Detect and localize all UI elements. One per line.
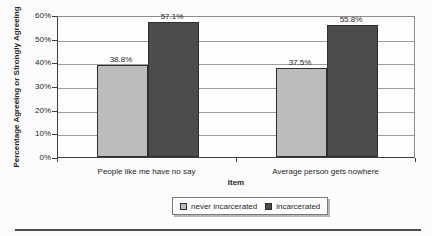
y-tick-label: 30% bbox=[21, 83, 51, 91]
bar-incarcerated bbox=[148, 22, 199, 157]
bar-value-label: 57.1% bbox=[147, 12, 197, 22]
category-label: People like me have no say bbox=[62, 167, 232, 177]
x-tick bbox=[57, 158, 58, 162]
bar-incarcerated bbox=[327, 25, 378, 157]
legend-marker-icon bbox=[180, 203, 187, 210]
category-label: Average person gets nowhere bbox=[241, 167, 411, 177]
bar-never-incarcerated bbox=[97, 65, 148, 157]
y-tick-label: 60% bbox=[21, 12, 51, 20]
bar-value-label: 37.5% bbox=[275, 58, 325, 68]
bar-chart: Percentage Agreeing or Strongly Agreeing… bbox=[0, 0, 432, 222]
y-tick bbox=[52, 134, 57, 135]
y-tick-label: 50% bbox=[21, 36, 51, 44]
horizontal-rule bbox=[15, 229, 421, 231]
x-tick bbox=[236, 158, 237, 162]
y-tick bbox=[52, 16, 57, 17]
bar-never-incarcerated bbox=[276, 68, 327, 157]
y-tick-label: 40% bbox=[21, 59, 51, 67]
y-tick bbox=[52, 111, 57, 112]
legend-entry-never-incarcerated: never incarcerated bbox=[180, 202, 257, 211]
plot-area bbox=[57, 16, 415, 158]
y-tick-label: 20% bbox=[21, 107, 51, 115]
y-tick bbox=[52, 40, 57, 41]
legend-label: incarcerated bbox=[276, 202, 320, 211]
y-tick bbox=[52, 63, 57, 64]
y-tick-label: 0% bbox=[21, 154, 51, 162]
bar-value-label: 38.8% bbox=[96, 55, 146, 65]
bar-value-label: 55.8% bbox=[326, 15, 376, 25]
x-tick bbox=[415, 158, 416, 162]
y-tick bbox=[52, 87, 57, 88]
legend: never incarcerated incarcerated bbox=[172, 197, 328, 215]
x-axis-title: Item bbox=[166, 178, 306, 187]
legend-marker-icon bbox=[265, 203, 272, 210]
y-tick-label: 10% bbox=[21, 130, 51, 138]
legend-entry-incarcerated: incarcerated bbox=[265, 202, 320, 211]
legend-label: never incarcerated bbox=[191, 202, 257, 211]
